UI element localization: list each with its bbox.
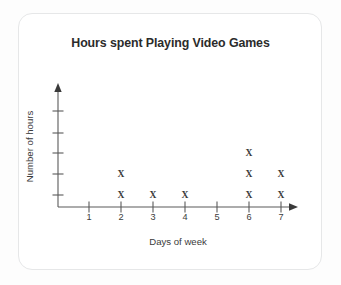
x-tick-label: 4 — [176, 212, 194, 222]
data-point-marker: X — [242, 167, 256, 181]
chart-page: Hours spent Playing Video Games — [0, 0, 341, 285]
data-point-marker: X — [114, 167, 128, 181]
x-axis-label: Days of week — [58, 236, 298, 247]
data-point-marker: X — [146, 188, 160, 202]
x-tick-label: 6 — [240, 212, 258, 222]
data-point-marker: X — [178, 188, 192, 202]
x-tick-label: 3 — [144, 212, 162, 222]
data-point-marker: X — [274, 167, 288, 181]
y-axis-label: Number of hours — [24, 92, 35, 202]
data-point-marker: X — [242, 146, 256, 160]
x-tick-label: 5 — [208, 212, 226, 222]
x-tick-label: 7 — [272, 212, 290, 222]
data-point-marker: X — [274, 188, 288, 202]
x-axis-arrow-icon — [289, 203, 298, 210]
data-point-marker: X — [114, 188, 128, 202]
x-tick-label: 1 — [80, 212, 98, 222]
data-point-marker: X — [242, 188, 256, 202]
x-tick-label: 2 — [112, 212, 130, 222]
y-axis-arrow-icon — [54, 83, 61, 92]
